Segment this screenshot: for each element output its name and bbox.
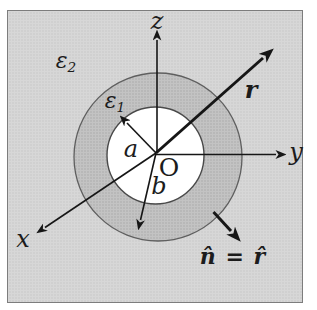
surface-normal-label: n̂ = r̂ bbox=[200, 245, 266, 267]
x-axis-label: x bbox=[16, 227, 30, 251]
figure-canvas: ε2 ε1 z y x a b O r n̂ = r̂ bbox=[0, 0, 317, 310]
origin-label: O bbox=[159, 155, 180, 180]
position-vector-label: r bbox=[245, 78, 258, 102]
shell-permittivity-label: ε1 bbox=[105, 90, 125, 112]
radius-a-label: a bbox=[124, 137, 138, 161]
epsilon1-base: ε bbox=[105, 88, 117, 113]
epsilon2-base: ε bbox=[56, 48, 68, 73]
y-axis-label: y bbox=[289, 140, 303, 164]
epsilon1-subscript: 1 bbox=[117, 99, 126, 115]
epsilon2-subscript: 2 bbox=[68, 59, 77, 75]
z-axis-label: z bbox=[151, 9, 164, 33]
outer-permittivity-label: ε2 bbox=[56, 50, 76, 72]
